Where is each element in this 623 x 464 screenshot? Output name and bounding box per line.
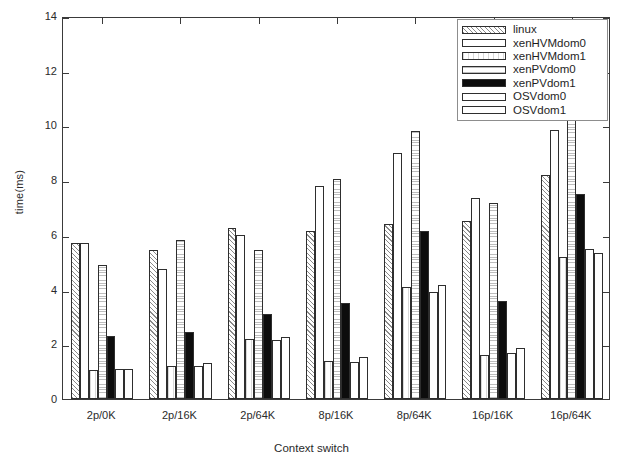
- legend-label: OSVdom0: [513, 91, 566, 102]
- y-tick-label: 4: [31, 284, 57, 296]
- bar-linux-2p64k: [228, 228, 237, 399]
- y-tick-mark-right: [603, 182, 609, 183]
- legend-swatch-osvdom1: [462, 106, 506, 114]
- bar-xenpvdom0-8p16k: [333, 179, 342, 399]
- bar-osvdom1-2p16k: [203, 363, 212, 399]
- bar-xenpvdom0-8p64k: [411, 131, 420, 399]
- bar-xenhvmdom1-8p64k: [402, 287, 411, 399]
- bar-linux-2p0k: [71, 243, 80, 399]
- x-tick-label: 8p/64K: [397, 409, 432, 421]
- bar-osvdom1-16p64k: [594, 253, 603, 399]
- bar-linux-2p16k: [149, 250, 158, 399]
- x-tick-mark: [337, 18, 338, 24]
- y-tick-mark-right: [603, 346, 609, 347]
- bar-osvdom0-8p16k: [350, 362, 359, 399]
- y-tick-label: 0: [31, 393, 57, 405]
- bar-osvdom1-2p64k: [281, 337, 290, 399]
- y-tick-label: 2: [31, 338, 57, 350]
- x-tick-label: 16p/16K: [472, 409, 513, 421]
- legend-item-linux: linux: [462, 23, 602, 36]
- bar-xenhvmdom1-16p64k: [559, 257, 568, 399]
- bar-chart: time(ms) Context switch 02468101214 2p/0…: [0, 0, 623, 464]
- x-tick-mark: [180, 18, 181, 24]
- legend-swatch-xenpvdom1: [462, 79, 506, 87]
- x-tick-label: 2p/0K: [87, 409, 116, 421]
- y-tick-mark: [63, 18, 69, 19]
- bar-xenpvdom1-16p16k: [498, 301, 507, 399]
- legend-item-xenhvmdom1: xenHVMdom1: [462, 50, 602, 63]
- y-tick-mark-right: [603, 237, 609, 238]
- bar-xenpvdom1-2p64k: [263, 314, 272, 399]
- bar-osvdom0-2p16k: [194, 366, 203, 399]
- bar-xenhvmdom1-2p64k: [245, 339, 254, 399]
- bar-osvdom0-16p64k: [585, 249, 594, 399]
- y-tick-mark: [63, 237, 69, 238]
- bar-xenhvmdom0-16p16k: [471, 198, 480, 399]
- bar-osvdom0-2p0k: [115, 369, 124, 399]
- bar-xenhvmdom0-2p16k: [158, 269, 167, 399]
- legend-item-xenhvmdom0: xenHVMdom0: [462, 36, 602, 49]
- bar-xenpvdom1-8p16k: [341, 303, 350, 399]
- y-tick-label: 6: [31, 229, 57, 241]
- y-axis-label: time(ms): [13, 152, 25, 232]
- bar-xenhvmdom0-8p64k: [393, 153, 402, 399]
- y-tick-mark: [63, 182, 69, 183]
- bar-xenhvmdom1-2p16k: [167, 366, 176, 399]
- bar-xenpvdom1-8p64k: [420, 231, 429, 399]
- y-tick-mark-right: [603, 127, 609, 128]
- legend-label: xenHVMdom1: [513, 51, 586, 62]
- legend-item-xenpvdom0: xenPVdom0: [462, 63, 602, 76]
- bar-xenpvdom0-2p16k: [176, 240, 185, 399]
- bar-osvdom1-8p16k: [359, 357, 368, 399]
- bar-xenhvmdom0-2p64k: [236, 235, 245, 399]
- bar-osvdom0-8p64k: [429, 292, 438, 399]
- bar-linux-8p16k: [306, 231, 315, 399]
- y-tick-mark: [63, 127, 69, 128]
- bar-xenhvmdom0-16p64k: [550, 130, 559, 399]
- y-tick-mark: [63, 292, 69, 293]
- bar-xenpvdom1-16p64k: [576, 194, 585, 399]
- legend-item-osvdom1: OSVdom1: [462, 103, 602, 116]
- y-tick-label: 14: [31, 10, 57, 22]
- bar-xenpvdom0-16p64k: [567, 115, 576, 400]
- y-tick-label: 12: [31, 65, 57, 77]
- legend-label: OSVdom1: [513, 105, 566, 116]
- bar-xenpvdom1-2p0k: [107, 336, 116, 399]
- bar-xenpvdom0-2p0k: [98, 265, 107, 399]
- y-tick-label: 10: [31, 119, 57, 131]
- bar-xenhvmdom0-8p16k: [315, 186, 324, 399]
- legend-swatch-xenhvmdom1: [462, 52, 506, 60]
- bar-xenpvdom0-2p64k: [254, 250, 263, 399]
- x-tick-mark: [259, 18, 260, 24]
- legend-item-osvdom0: OSVdom0: [462, 90, 602, 103]
- legend-label: linux: [513, 24, 537, 35]
- legend-label: xenPVdom0: [513, 64, 576, 75]
- bar-xenpvdom0-16p16k: [489, 203, 498, 399]
- bar-xenhvmdom1-16p16k: [480, 355, 489, 399]
- bar-xenhvmdom0-2p0k: [80, 243, 89, 399]
- bar-osvdom1-8p64k: [438, 285, 447, 399]
- y-tick-label: 8: [31, 174, 57, 186]
- legend-swatch-linux: [462, 26, 506, 34]
- bar-linux-8p64k: [384, 224, 393, 399]
- bar-osvdom0-2p64k: [272, 340, 281, 399]
- bar-osvdom1-16p16k: [516, 348, 525, 399]
- chart-legend: linuxxenHVMdom0xenHVMdom1xenPVdom0xenPVd…: [457, 19, 608, 121]
- bar-osvdom1-2p0k: [124, 369, 133, 399]
- x-tick-label: 2p/16K: [162, 409, 197, 421]
- bar-linux-16p16k: [462, 221, 471, 399]
- legend-swatch-xenhvmdom0: [462, 39, 506, 47]
- legend-label: xenHVMdom0: [513, 38, 586, 49]
- bar-xenhvmdom1-8p16k: [324, 361, 333, 399]
- legend-swatch-osvdom0: [462, 93, 506, 101]
- legend-item-xenpvdom1: xenPVdom1: [462, 77, 602, 90]
- y-tick-mark-right: [603, 292, 609, 293]
- legend-swatch-xenpvdom0: [462, 66, 506, 74]
- x-tick-label: 16p/64K: [550, 409, 591, 421]
- bar-xenhvmdom1-2p0k: [89, 370, 98, 399]
- x-axis-label: Context switch: [0, 442, 623, 454]
- bar-osvdom0-16p16k: [507, 353, 516, 400]
- y-tick-mark: [63, 73, 69, 74]
- bar-xenpvdom1-2p16k: [185, 332, 194, 399]
- x-tick-label: 2p/64K: [240, 409, 275, 421]
